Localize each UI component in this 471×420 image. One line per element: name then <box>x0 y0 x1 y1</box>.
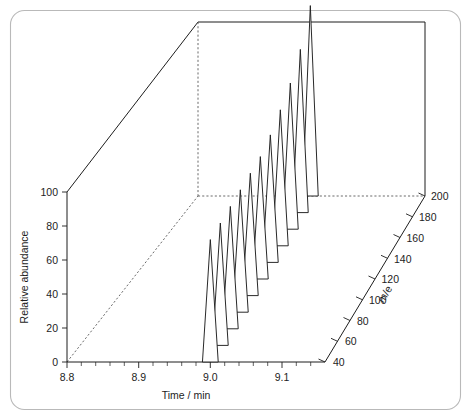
z-tick-label-160: 160 <box>407 232 425 244</box>
z-tick-label-40: 40 <box>333 356 345 368</box>
z-tick-label-120: 120 <box>382 273 400 285</box>
x-tick-label-8-8: 8.8 <box>60 371 75 383</box>
figure-container: 0 20 40 60 80 100 Relative abundance <box>0 0 471 420</box>
y-tick-label-20: 20 <box>46 322 58 334</box>
y-tick-label-100: 100 <box>40 186 58 198</box>
x-axis-title: Time / min <box>162 389 211 401</box>
figure-border <box>11 11 461 410</box>
y-tick-label-80: 80 <box>46 220 58 232</box>
y-tick-label-60: 60 <box>46 254 58 266</box>
y-tick-label-0: 0 <box>52 356 58 368</box>
z-tick-label-140: 140 <box>394 253 412 265</box>
chart-3d-mass-chromatogram: 0 20 40 60 80 100 Relative abundance <box>0 0 471 420</box>
y-axis-title: Relative abundance <box>18 230 30 323</box>
y-tick-label-40: 40 <box>46 288 58 300</box>
z-tick-label-200: 200 <box>431 190 449 202</box>
x-tick-label-9-0: 9.0 <box>203 371 218 383</box>
x-tick-label-9-1: 9.1 <box>275 371 290 383</box>
z-tick-label-80: 80 <box>357 315 369 327</box>
z-tick-label-180: 180 <box>419 211 437 223</box>
x-tick-label-8-9: 8.9 <box>131 371 146 383</box>
z-tick-label-60: 60 <box>345 335 357 347</box>
